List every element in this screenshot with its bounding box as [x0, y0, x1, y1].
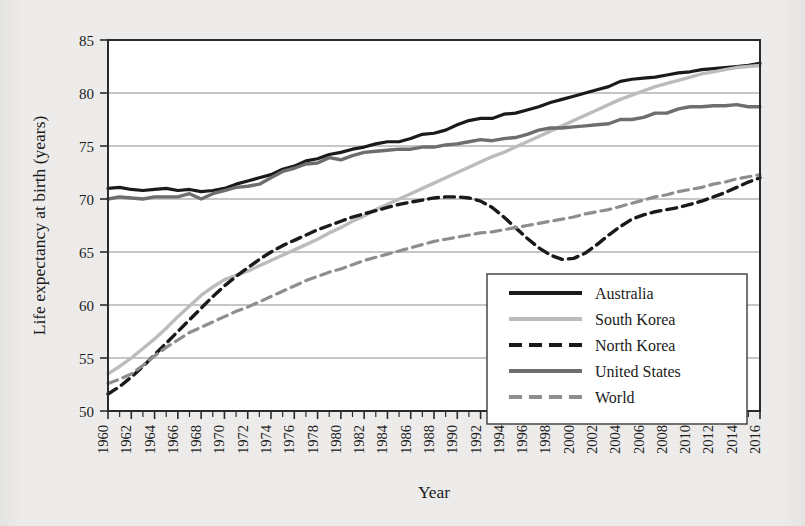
x-tick-label-2006: 2006	[631, 425, 647, 454]
x-tick-label-1972: 1972	[235, 425, 251, 454]
y-tick-label-75: 75	[79, 139, 94, 155]
y-tick-label-60: 60	[79, 298, 94, 314]
x-tick-label-1978: 1978	[305, 425, 321, 454]
legend-label-australia: Australia	[595, 285, 654, 302]
x-tick-label-1966: 1966	[165, 425, 181, 454]
y-tick-label-55: 55	[79, 351, 94, 367]
y-axis-ticks	[100, 40, 108, 411]
x-tick-label-2008: 2008	[654, 425, 670, 454]
x-tick-label-2000: 2000	[561, 425, 577, 454]
x-tick-label-2004: 2004	[607, 424, 623, 454]
y-tick-label-85: 85	[79, 33, 94, 49]
y-axis-tick-labels: 8580757065605550	[79, 33, 94, 420]
x-tick-label-1994: 1994	[491, 424, 507, 454]
x-tick-label-2002: 2002	[584, 425, 600, 454]
x-tick-label-1974: 1974	[258, 424, 274, 454]
life-expectancy-line-chart: 8580757065605550 19601962196419661968197…	[0, 0, 805, 526]
x-axis-title: Year	[418, 482, 450, 502]
x-tick-label-1992: 1992	[468, 425, 484, 454]
x-tick-label-2016: 2016	[747, 425, 763, 454]
x-tick-label-1968: 1968	[188, 425, 204, 454]
x-tick-label-1970: 1970	[211, 425, 227, 454]
x-tick-label-1986: 1986	[398, 425, 414, 454]
x-tick-label-1980: 1980	[328, 425, 344, 454]
x-tick-label-1962: 1962	[118, 425, 134, 454]
y-tick-label-70: 70	[79, 192, 94, 208]
x-tick-label-1982: 1982	[351, 425, 367, 454]
x-tick-label-1976: 1976	[281, 425, 297, 454]
x-axis-tick-labels: 1960196219641966196819701972197419761978…	[95, 424, 763, 454]
x-tick-label-2014: 2014	[724, 424, 740, 454]
x-tick-label-1960: 1960	[95, 425, 111, 454]
chart-figure: 8580757065605550 19601962196419661968197…	[0, 0, 805, 526]
x-tick-label-1996: 1996	[514, 425, 530, 454]
legend-label-south-korea: South Korea	[595, 311, 675, 328]
x-tick-label-1984: 1984	[374, 424, 390, 454]
y-tick-label-65: 65	[79, 245, 94, 261]
y-axis-title: Life expectancy at birth (years)	[29, 116, 49, 336]
legend-label-north-korea: North Korea	[595, 337, 675, 354]
y-tick-label-50: 50	[79, 404, 94, 420]
x-tick-label-2012: 2012	[700, 425, 716, 454]
x-tick-label-1988: 1988	[421, 425, 437, 454]
y-tick-label-80: 80	[79, 86, 94, 102]
x-tick-label-1998: 1998	[537, 425, 553, 454]
legend-label-united-states: United States	[595, 363, 681, 380]
legend-label-world: World	[595, 389, 635, 406]
x-tick-label-1964: 1964	[142, 424, 158, 454]
x-tick-label-1990: 1990	[444, 425, 460, 454]
chart-legend: AustraliaSouth KoreaNorth KoreaUnited St…	[487, 274, 747, 424]
x-tick-label-2010: 2010	[677, 425, 693, 454]
